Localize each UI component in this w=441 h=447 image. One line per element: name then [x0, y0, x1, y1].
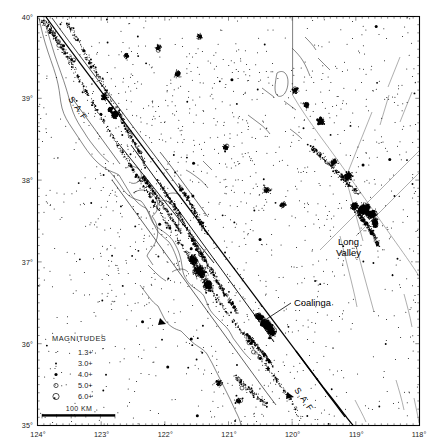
x-tick-label: 118° [412, 430, 427, 439]
x-tick-label: 120° [285, 430, 300, 439]
coalinga-label: Coalinga [294, 297, 332, 308]
map-canvas: 124° 123° 122° 121° 120° 119° 118° 40° 3… [0, 0, 441, 447]
x-tick-label: 121° [221, 430, 236, 439]
x-tick-label: 124° [30, 430, 45, 439]
y-tick-label: 36° [22, 340, 33, 349]
legend-symbol-small-dot [55, 363, 57, 365]
y-tick-label: 35° [22, 421, 33, 430]
seismicity-map-figure: 124° 123° 122° 121° 120° 119° 118° 40° 3… [0, 0, 441, 447]
y-tick-label: 37° [22, 258, 33, 267]
legend-label: 4.0+ [78, 370, 93, 379]
x-tick-label: 122° [158, 430, 173, 439]
y-tick-label: 38° [22, 176, 33, 185]
scale-bar-label: 100 KM [66, 405, 93, 412]
legend-label: 5.0+ [78, 381, 93, 390]
legend-label: 6.0+ [78, 392, 93, 401]
x-tick-label: 119° [349, 430, 364, 439]
legend-symbol-medium-dot [54, 373, 57, 376]
x-tick-label: 123° [94, 430, 109, 439]
legend-title: MAGNITUDES [52, 334, 106, 343]
y-tick-label: 40° [22, 13, 33, 22]
legend-symbol-tiny-dot [55, 352, 56, 353]
legend-label: 1.3+ [78, 348, 93, 357]
legend-label: 3.0+ [78, 359, 93, 368]
long-valley-label-line2: Valley [336, 247, 361, 258]
y-tick-label: 39° [22, 94, 33, 103]
long-valley-label-line1: Long [338, 236, 359, 247]
